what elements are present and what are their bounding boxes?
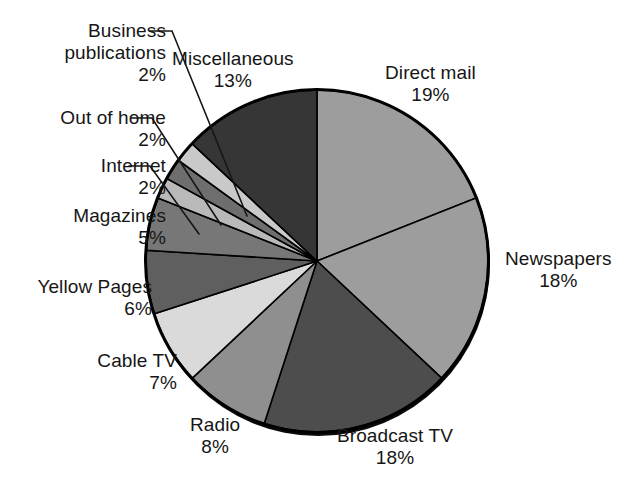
slice-label-business-publications: Business publications 2%	[64, 20, 166, 86]
slice-label-miscellaneous: Miscellaneous 13%	[172, 48, 294, 92]
slice-label-internet: Internet 2%	[101, 155, 166, 199]
slice-percent: 6%	[37, 298, 152, 320]
slice-label-direct-mail: Direct mail 19%	[385, 62, 476, 106]
slice-percent: 7%	[97, 372, 177, 394]
slice-label-cable-tv: Cable TV 7%	[97, 350, 177, 394]
slice-percent: 2%	[64, 64, 166, 86]
slice-percent: 2%	[101, 177, 166, 199]
slice-label-line1: Direct mail	[385, 62, 476, 83]
slice-label-newspapers: Newspapers 18%	[505, 248, 612, 292]
slice-label-line1: Radio	[190, 414, 240, 435]
slice-percent: 19%	[385, 84, 476, 106]
slice-percent: 5%	[73, 227, 166, 249]
slice-label-out-of-home: Out of home 2%	[60, 107, 166, 151]
slice-label-line1: Out of home	[60, 107, 166, 128]
slice-label-line1: Magazines	[73, 205, 166, 226]
slice-label-line1: Yellow Pages	[37, 276, 152, 297]
slice-label-line1: Cable TV	[97, 350, 177, 371]
slice-label-radio: Radio 8%	[190, 414, 240, 458]
slice-label-line1: Internet	[101, 155, 166, 176]
slice-percent: 13%	[172, 70, 294, 92]
slice-label-line1: Miscellaneous	[172, 48, 294, 69]
slice-label-line1: Broadcast TV	[337, 425, 453, 446]
pie-slices-group	[146, 90, 488, 432]
slice-label-magazines: Magazines 5%	[73, 205, 166, 249]
slice-label-yellow-pages: Yellow Pages 6%	[37, 276, 152, 320]
slice-percent: 18%	[337, 447, 453, 469]
slice-percent: 2%	[60, 129, 166, 151]
slice-label-line2: publications	[64, 42, 166, 63]
slice-percent: 8%	[190, 436, 240, 458]
pie-chart-figure: Business publications 2% Out of home 2% …	[0, 0, 626, 502]
slice-label-line1: Business	[88, 20, 166, 41]
slice-percent: 18%	[505, 270, 612, 292]
slice-label-broadcast-tv: Broadcast TV 18%	[337, 425, 453, 469]
slice-label-line1: Newspapers	[505, 248, 612, 269]
